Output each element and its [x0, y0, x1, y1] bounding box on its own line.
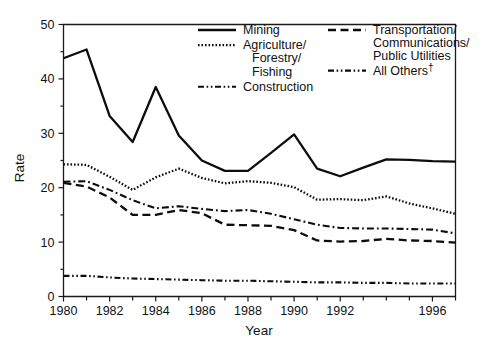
legend-label-agriculture-l2: Forestry/: [252, 51, 302, 65]
legend-label-all-others: All Others†: [373, 62, 433, 78]
all-others-dagger: †: [428, 62, 434, 73]
y-tick-label-20: 20: [41, 181, 55, 195]
y-tick-label-50: 50: [41, 18, 55, 32]
legend-label-transportation-l2: Communications/: [373, 36, 470, 50]
y-tick-label-10: 10: [41, 236, 55, 250]
x-tick-label-1982: 1982: [96, 304, 124, 318]
x-tick-label-1980: 1980: [50, 304, 78, 318]
line-chart: 01020304050 1980198219841986198819901992…: [0, 0, 481, 344]
x-tick-label-1990: 1990: [280, 304, 308, 318]
x-tick-label-1986: 1986: [188, 304, 216, 318]
legend-label-agriculture: Agriculture/: [243, 38, 307, 52]
x-tick-label-1988: 1988: [234, 304, 262, 318]
y-tick-label-30: 30: [41, 127, 55, 141]
x-tick-label-1996: 1996: [419, 304, 447, 318]
y-tick-label-40: 40: [41, 72, 55, 86]
y-axis-title: Rate: [12, 154, 27, 183]
legend-label-agriculture-l3: Fishing: [252, 65, 292, 79]
legend-label-construction: Construction: [243, 80, 313, 94]
chart-figure: 01020304050 1980198219841986198819901992…: [0, 0, 481, 344]
legend-label-transportation-l3: Public Utilities: [373, 49, 451, 63]
legend-label-mining: Mining: [243, 23, 280, 37]
x-axis-title: Year: [245, 323, 273, 338]
x-tick-label-1984: 1984: [142, 304, 170, 318]
legend-label-transportation: Transportation/: [373, 23, 457, 37]
x-tick-label-1992: 1992: [326, 304, 354, 318]
y-tick-label-0: 0: [48, 290, 55, 304]
